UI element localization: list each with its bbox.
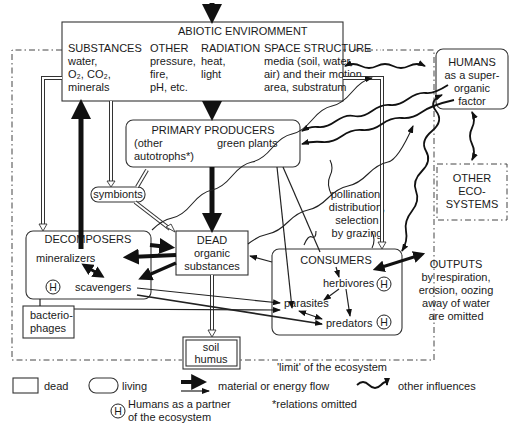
humans-title: HUMANS xyxy=(448,56,496,68)
producers-green-plants: green plants xyxy=(217,137,278,149)
substances-heading: SUBSTANCES xyxy=(68,42,142,54)
humans-box: HUMANS as a super- organic factor xyxy=(436,49,508,109)
humans-line2: as a super- xyxy=(444,69,499,81)
primary-producers-box: PRIMARY PRODUCERS (other autotrophs*) gr… xyxy=(126,120,300,167)
other-fire: fire, xyxy=(150,68,168,80)
symbionts-label: symbionts xyxy=(93,188,143,200)
other-ecosystems-box: OTHER ECO- SYSTEMS xyxy=(437,164,507,220)
abiotic-title: ABIOTIC ENVIROMMENT xyxy=(178,25,308,37)
dead-line2: organic xyxy=(194,247,231,259)
bacteriophages-line2: phages xyxy=(30,322,67,334)
bacteriophages-to-parasites xyxy=(74,309,280,310)
ecosystem-diagram: ABIOTIC ENVIROMMENT SUBSTANCES water, O₂… xyxy=(0,0,516,433)
legend-dead-swatch xyxy=(13,378,38,393)
outputs-line5: are omitted xyxy=(428,310,483,322)
other-eco-line1: OTHER xyxy=(453,172,492,184)
consumers-to-dead xyxy=(250,256,272,262)
soil-line2: humus xyxy=(194,353,228,365)
substances-water: water, xyxy=(67,55,97,67)
humans-line3: organic xyxy=(454,82,491,94)
scavengers-to-parasites xyxy=(137,288,280,303)
predators-label: predators xyxy=(326,317,373,329)
note-line3: selection xyxy=(335,214,378,226)
legend-wavy-arrow-icon xyxy=(357,382,387,388)
dbl-abiotic-to-decomposers xyxy=(43,78,62,226)
mineralizers-label: mineralizers xyxy=(36,252,96,264)
outputs-note: OUTPUTS by respiration, erosion, oozing … xyxy=(419,258,494,322)
scavengers-label: scavengers xyxy=(75,281,132,293)
flow-decomposers-to-dead xyxy=(150,245,168,247)
bacteriophages-line1: bacterio- xyxy=(30,309,73,321)
consumers-title: CONSUMERS xyxy=(300,254,372,266)
soil-line1: soil xyxy=(203,341,220,353)
bacteriophages-box: bacterio- phages xyxy=(23,306,74,338)
space-heading: SPACE STRUCTURE xyxy=(264,42,371,54)
radiation-light: light xyxy=(201,68,221,80)
note-line4: by grazing xyxy=(332,227,383,239)
legend-living-swatch xyxy=(89,378,118,393)
legend-flow-label: material or energy flow xyxy=(218,380,329,392)
other-ph: pH, etc. xyxy=(150,81,188,93)
human-mark: H xyxy=(380,316,388,328)
producers-autotrophs: autotrophs*) xyxy=(134,150,194,162)
space-area: area, substratum xyxy=(264,81,347,93)
outputs-line4: away of water xyxy=(422,297,490,309)
human-mark: H xyxy=(380,278,388,290)
soil-humus-box: soil humus xyxy=(183,337,240,369)
pollination-note: pollination, distribution, selection by … xyxy=(329,188,385,239)
decomposers-box: DECOMPOSERS mineralizers scavengers H xyxy=(26,231,151,299)
dead-title: DEAD xyxy=(197,234,228,246)
legend: dead living material or energy flow othe… xyxy=(13,378,476,423)
outputs-line3: erosion, oozing xyxy=(419,284,494,296)
legend-relations-note: *relations omitted xyxy=(272,398,357,410)
consumers-box: CONSUMERS herbivores parasites predators… xyxy=(272,249,402,335)
legend-humans-partner-line1: Humans as a partner xyxy=(128,398,231,410)
substances-minerals: minerals xyxy=(68,81,110,93)
dead-line3: substances xyxy=(184,260,240,272)
symbionts-box: symbionts xyxy=(91,187,145,202)
other-eco-line3: SYSTEMS xyxy=(446,198,499,210)
legend-other-label: other influences xyxy=(398,380,476,392)
legend-living-label: living xyxy=(122,380,147,392)
legend-human-mark: H xyxy=(114,405,122,417)
substances-gases: O₂, CO₂, xyxy=(68,68,111,80)
abiotic-environment-box: ABIOTIC ENVIROMMENT SUBSTANCES water, O₂… xyxy=(62,22,371,101)
legend-dead-label: dead xyxy=(44,380,68,392)
ecosystem-limit-label: 'limit' of the ecosystem xyxy=(277,361,387,373)
outputs-line2: by respiration, xyxy=(421,271,490,283)
producers-title: PRIMARY PRODUCERS xyxy=(151,124,274,136)
other-eco-line2: ECO- xyxy=(458,185,486,197)
dead-organic-box: DEAD organic substances xyxy=(176,231,248,275)
decomposers-title: DECOMPOSERS xyxy=(45,233,132,245)
radiation-heading: RADIATION xyxy=(201,42,260,54)
herbivores-label: herbivores xyxy=(323,277,375,289)
human-mark: H xyxy=(49,281,57,293)
other-pressure: pressure, xyxy=(150,55,196,67)
legend-humans-partner-line2: of the ecosystem xyxy=(128,411,211,423)
wavy-humans-other-ecosystems xyxy=(470,112,474,160)
outputs-title: OUTPUTS xyxy=(430,258,483,270)
flow-dead-to-mineralizers xyxy=(130,255,176,257)
space-media: media (soil, water, xyxy=(264,55,353,67)
other-heading: OTHER xyxy=(150,42,189,54)
radiation-heat: heat, xyxy=(201,55,225,67)
producers-to-consumers xyxy=(283,167,320,252)
producers-other: (other xyxy=(134,137,163,149)
note-line2: distribution, xyxy=(329,201,385,213)
humans-line4: factor xyxy=(458,95,486,107)
